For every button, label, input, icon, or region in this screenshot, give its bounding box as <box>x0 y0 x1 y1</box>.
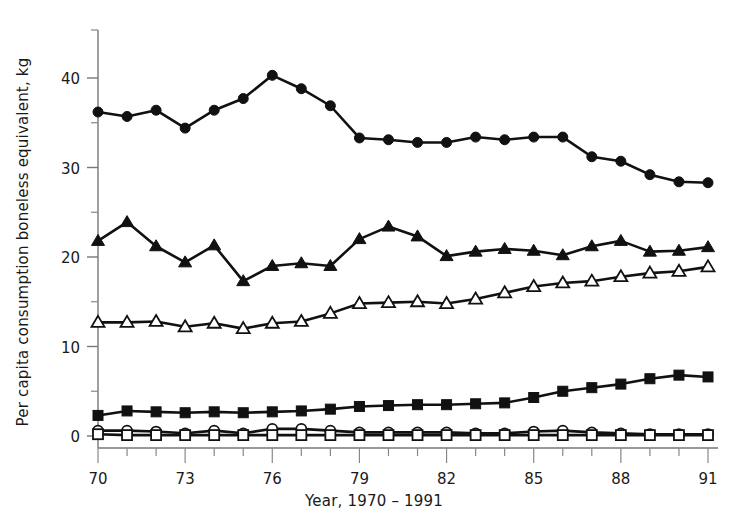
x-tick-label: 76 <box>263 470 282 488</box>
marker-open-square <box>645 430 655 440</box>
marker-filled-circle <box>267 70 277 80</box>
marker-open-square <box>703 430 713 440</box>
marker-filled-circle <box>383 135 393 145</box>
marker-filled-square <box>645 374 655 384</box>
marker-open-square <box>180 430 190 440</box>
x-tick-label: 70 <box>88 470 107 488</box>
marker-filled-circle <box>500 135 510 145</box>
series-filled-circle-series <box>93 70 713 187</box>
y-tick-label: 0 <box>70 428 80 446</box>
marker-filled-circle <box>238 94 248 104</box>
marker-filled-square <box>500 398 510 408</box>
series-layer <box>92 70 715 440</box>
marker-open-triangle <box>208 317 221 328</box>
line-chart-plot: 0102030407073767982858891 <box>0 0 748 529</box>
marker-filled-square <box>151 407 161 417</box>
marker-open-square <box>587 430 597 440</box>
marker-open-square <box>122 430 132 440</box>
marker-filled-triangle <box>179 256 192 267</box>
marker-filled-circle <box>296 84 306 94</box>
marker-filled-square <box>122 406 132 416</box>
marker-open-square <box>500 430 510 440</box>
marker-filled-square <box>529 393 539 403</box>
marker-open-square <box>471 430 481 440</box>
marker-open-square <box>267 430 277 440</box>
marker-filled-square <box>93 410 103 420</box>
marker-filled-circle <box>354 133 364 143</box>
marker-filled-square <box>413 400 423 410</box>
x-tick-label: 73 <box>176 470 195 488</box>
marker-open-square <box>93 429 103 439</box>
x-tick-label: 85 <box>524 470 543 488</box>
marker-filled-triangle <box>295 257 308 268</box>
x-tick-label: 88 <box>611 470 630 488</box>
marker-filled-square <box>558 386 568 396</box>
marker-filled-circle <box>209 105 219 115</box>
x-tick-label: 82 <box>437 470 456 488</box>
marker-open-square <box>151 430 161 440</box>
marker-filled-circle <box>645 170 655 180</box>
marker-filled-triangle <box>121 216 134 227</box>
marker-filled-circle <box>180 123 190 133</box>
marker-open-square <box>558 430 568 440</box>
series-filled-square-series <box>93 370 713 420</box>
marker-filled-square <box>209 407 219 417</box>
marker-filled-square <box>354 401 364 411</box>
marker-open-square <box>354 430 364 440</box>
marker-open-square <box>238 430 248 440</box>
marker-filled-triangle <box>614 234 627 245</box>
marker-filled-square <box>442 400 452 410</box>
marker-filled-square <box>471 399 481 409</box>
marker-filled-square <box>180 408 190 418</box>
marker-filled-circle <box>151 105 161 115</box>
marker-filled-circle <box>471 132 481 142</box>
series-open-triangle-series <box>92 260 715 333</box>
marker-filled-square <box>238 408 248 418</box>
marker-filled-circle <box>616 156 626 166</box>
marker-open-square <box>325 430 335 440</box>
marker-open-square <box>442 430 452 440</box>
series-line <box>98 222 708 281</box>
marker-filled-circle <box>325 101 335 111</box>
marker-open-square <box>209 430 219 440</box>
y-tick-label: 30 <box>61 160 80 178</box>
y-tick-label: 10 <box>61 339 80 357</box>
marker-filled-circle <box>587 152 597 162</box>
marker-filled-triangle <box>702 241 715 252</box>
marker-filled-square <box>267 407 277 417</box>
marker-open-square <box>674 430 684 440</box>
marker-open-square <box>616 430 626 440</box>
marker-filled-circle <box>674 177 684 187</box>
marker-open-square <box>296 430 306 440</box>
marker-filled-circle <box>93 107 103 117</box>
marker-filled-circle <box>413 137 423 147</box>
marker-filled-triangle <box>92 234 105 245</box>
marker-filled-square <box>703 372 713 382</box>
marker-filled-circle <box>442 137 452 147</box>
marker-open-square <box>383 430 393 440</box>
y-tick-label: 20 <box>61 249 80 267</box>
marker-open-square <box>413 430 423 440</box>
y-tick-label: 40 <box>61 70 80 88</box>
series-open-square-series <box>93 429 713 440</box>
marker-filled-square <box>674 370 684 380</box>
marker-filled-circle <box>703 178 713 188</box>
chart-container: Per capita consumption boneless equivale… <box>0 0 748 529</box>
axes-layer <box>87 30 718 463</box>
x-tick-label: 91 <box>698 470 717 488</box>
marker-filled-square <box>296 406 306 416</box>
marker-open-square <box>529 430 539 440</box>
marker-open-triangle <box>702 260 715 271</box>
marker-filled-triangle <box>382 220 395 231</box>
x-tick-label: 79 <box>350 470 369 488</box>
marker-filled-triangle <box>208 239 221 250</box>
marker-filled-square <box>616 379 626 389</box>
marker-filled-square <box>587 383 597 393</box>
marker-filled-square <box>325 404 335 414</box>
marker-filled-circle <box>529 132 539 142</box>
marker-filled-square <box>383 401 393 411</box>
marker-filled-circle <box>122 111 132 121</box>
marker-filled-circle <box>558 132 568 142</box>
